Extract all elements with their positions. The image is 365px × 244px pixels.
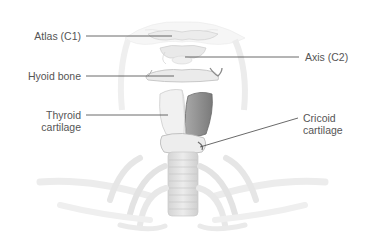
atlas-vertebra [148,30,218,40]
label-cricoid-cartilage: Cricoid cartilage [303,112,343,136]
thyroid-cartilage [160,90,213,137]
trachea [168,152,198,216]
hyoid-bone [146,68,222,82]
label-hyoid: Hyoid bone [28,70,81,82]
label-thyroid-line2: cartilage [41,121,81,133]
cricoid-cartilage [160,133,205,154]
label-thyroid-line1: Thyroid [41,109,81,121]
label-cricoid-line1: Cricoid [303,112,343,124]
label-cricoid-line2: cartilage [303,124,343,136]
leader-cricoid [200,118,298,147]
label-axis: Axis (C2) [305,51,348,63]
label-atlas: Atlas (C1) [34,30,81,42]
axis-vertebra [160,45,206,64]
anatomy-diagram: Atlas (C1) Axis (C2) Hyoid bone Thyroid … [0,0,365,244]
label-thyroid-cartilage: Thyroid cartilage [41,109,81,133]
